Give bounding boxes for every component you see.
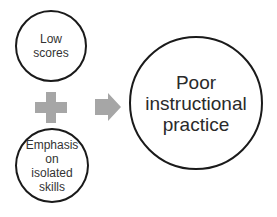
- node-emphasis-isolated-skills: Emphasis on isolated skills: [15, 128, 89, 203]
- node-label: Low scores: [33, 32, 68, 60]
- arrow-right-icon: [95, 93, 121, 121]
- node-label: Poor instructional practice: [145, 72, 246, 135]
- node-poor-instructional-practice: Poor instructional practice: [129, 36, 263, 170]
- node-label: Emphasis on isolated skills: [26, 138, 79, 194]
- node-low-scores: Low scores: [15, 10, 87, 82]
- plus-icon: [35, 92, 67, 123]
